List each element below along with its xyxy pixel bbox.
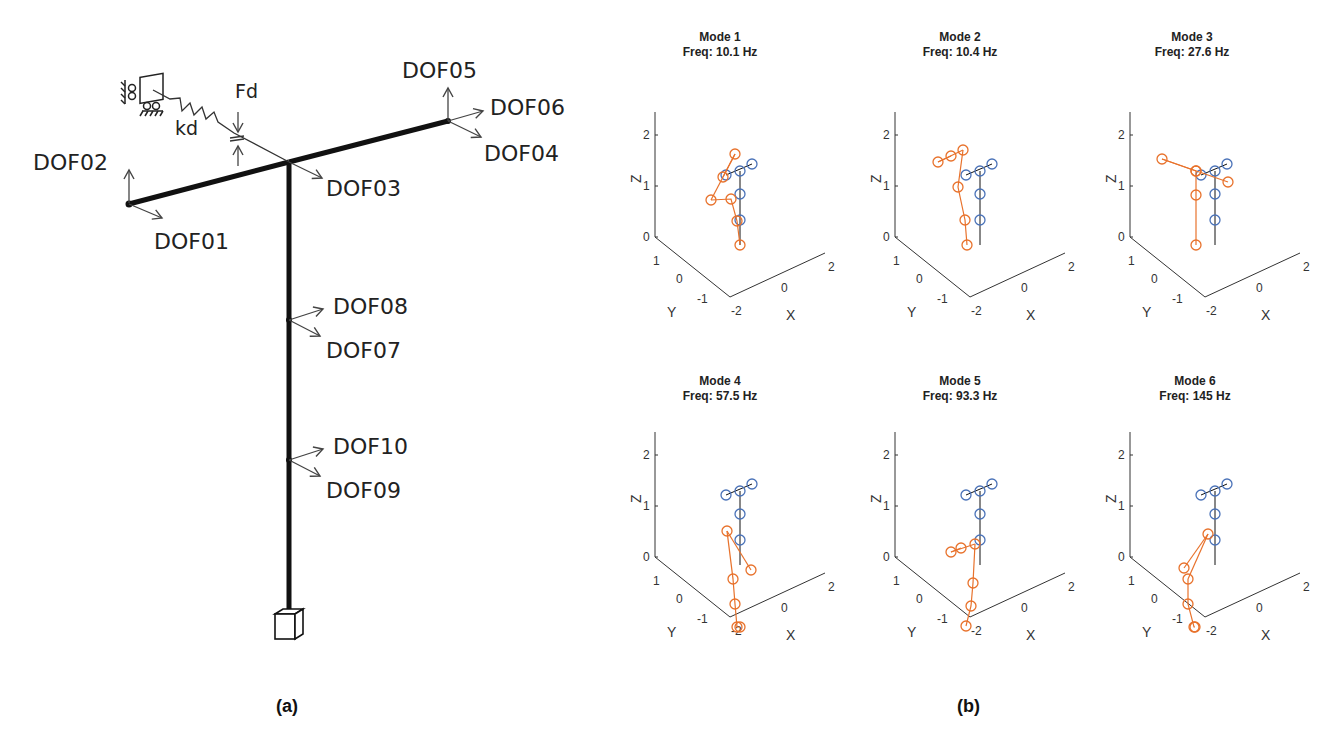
dof01-arrow-icon (129, 204, 162, 218)
svg-text:0: 0 (916, 592, 923, 606)
damper-stiffness-label: kd (175, 117, 198, 139)
svg-text:0: 0 (781, 601, 788, 615)
dof08-arrow-icon (289, 309, 323, 320)
svg-text:-2: -2 (1206, 304, 1217, 318)
dof04-label: DOF04 (484, 141, 559, 166)
structure-schematic: Fd kd DOF02 DOF01 DOF03 DOF05 DOF06 DOF0… (0, 0, 600, 741)
dof01-label: DOF01 (154, 229, 229, 254)
svg-text:Y: Y (907, 624, 917, 640)
svg-text:2: 2 (883, 448, 890, 462)
svg-text:-1: -1 (937, 612, 948, 626)
svg-text:1: 1 (893, 574, 900, 588)
fixed-base-cube-icon (275, 609, 303, 639)
svg-text:1: 1 (653, 574, 660, 588)
mode-3d-axes: 012Z10-1Y-202X (840, 330, 1080, 660)
svg-text:1: 1 (1118, 179, 1125, 193)
svg-text:Y: Y (1142, 304, 1152, 320)
svg-text:-1: -1 (1172, 292, 1183, 306)
svg-text:1: 1 (1128, 574, 1135, 588)
mode-3d-axes: 012Z10-1Y-202X (600, 330, 840, 660)
horizontal-beam-right (289, 121, 448, 162)
dof05-label: DOF05 (402, 58, 477, 83)
svg-text:0: 0 (676, 272, 683, 286)
svg-text:1: 1 (643, 179, 650, 193)
svg-text:-2: -2 (971, 304, 982, 318)
dof07-label: DOF07 (326, 338, 401, 363)
svg-text:0: 0 (1118, 550, 1125, 564)
svg-text:Y: Y (907, 304, 917, 320)
svg-text:-2: -2 (971, 624, 982, 638)
svg-text:0: 0 (883, 550, 890, 564)
svg-text:0: 0 (1151, 592, 1158, 606)
dof09-arrow-icon (289, 460, 320, 476)
svg-text:0: 0 (1118, 230, 1125, 244)
mode-plot-4: Mode 4Freq: 57.5 Hz012Z10-1Y-202X (600, 330, 840, 660)
dof06-arrow-icon (448, 111, 483, 121)
dof07-arrow-icon (289, 320, 320, 336)
dof10-label: DOF10 (333, 434, 408, 459)
svg-text:X: X (786, 627, 796, 643)
figure-a-caption: (a) (276, 696, 298, 717)
svg-text:0: 0 (1021, 281, 1028, 295)
svg-text:2: 2 (828, 260, 835, 274)
svg-text:1: 1 (1118, 499, 1125, 513)
figure-b-caption: (b) (957, 696, 980, 717)
svg-text:2: 2 (1068, 260, 1075, 274)
svg-text:2: 2 (1303, 580, 1310, 594)
dof06-label: DOF06 (490, 95, 565, 120)
svg-text:1: 1 (893, 254, 900, 268)
svg-text:-1: -1 (697, 612, 708, 626)
svg-text:2: 2 (643, 448, 650, 462)
svg-text:0: 0 (1256, 281, 1263, 295)
svg-text:Z: Z (1103, 494, 1119, 503)
svg-text:Z: Z (628, 494, 644, 503)
svg-text:X: X (1026, 307, 1036, 323)
mode-3d-axes: 012Z10-1Y-202X (840, 0, 1080, 330)
svg-text:Z: Z (868, 494, 884, 503)
svg-text:1: 1 (653, 254, 660, 268)
svg-text:Z: Z (628, 174, 644, 183)
dof04-arrow-icon (448, 121, 481, 137)
svg-text:Y: Y (1142, 624, 1152, 640)
mode-plot-1: Mode 1Freq: 10.1 Hz012Z10-1Y-202X (600, 0, 840, 330)
svg-text:X: X (1026, 627, 1036, 643)
svg-text:-1: -1 (937, 292, 948, 306)
dof08-label: DOF08 (333, 294, 408, 319)
svg-text:1: 1 (883, 179, 890, 193)
svg-text:X: X (1261, 627, 1271, 643)
svg-text:2: 2 (883, 128, 890, 142)
mode-3d-axes: 012Z10-1Y-202X (1075, 0, 1315, 330)
svg-text:1: 1 (883, 499, 890, 513)
svg-text:0: 0 (676, 592, 683, 606)
svg-text:2: 2 (1118, 448, 1125, 462)
svg-text:Y: Y (667, 304, 677, 320)
svg-text:Z: Z (868, 174, 884, 183)
mode-plot-5: Mode 5Freq: 93.3 Hz012Z10-1Y-202X (840, 330, 1080, 660)
svg-text:2: 2 (1068, 580, 1075, 594)
svg-text:1: 1 (643, 499, 650, 513)
damper-support-icon (121, 73, 163, 116)
svg-text:2: 2 (1303, 260, 1310, 274)
svg-text:-2: -2 (1206, 624, 1217, 638)
svg-text:Y: Y (667, 624, 677, 640)
svg-text:0: 0 (883, 230, 890, 244)
dof10-arrow-icon (289, 449, 323, 460)
svg-text:-1: -1 (1172, 612, 1183, 626)
horizontal-beam-left (129, 162, 289, 204)
svg-text:1: 1 (1128, 254, 1135, 268)
svg-text:0: 0 (1256, 601, 1263, 615)
damper-spring (153, 90, 289, 162)
mode-plot-3: Mode 3Freq: 27.6 Hz012Z10-1Y-202X (1075, 0, 1315, 330)
dof02-label: DOF02 (33, 150, 108, 175)
svg-text:-2: -2 (731, 304, 742, 318)
svg-text:-1: -1 (697, 292, 708, 306)
svg-text:2: 2 (1118, 128, 1125, 142)
svg-text:0: 0 (643, 550, 650, 564)
dof03-label: DOF03 (326, 176, 401, 201)
mode-3d-axes: 012Z10-1Y-202X (1075, 330, 1315, 660)
svg-text:0: 0 (781, 281, 788, 295)
damper-force-label: Fd (235, 80, 258, 102)
dof03-arrow-icon (289, 162, 322, 178)
svg-text:0: 0 (1151, 272, 1158, 286)
svg-text:Z: Z (1103, 174, 1119, 183)
